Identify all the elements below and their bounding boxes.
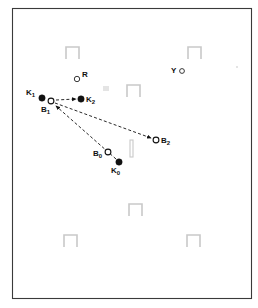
node-marker-y bbox=[180, 69, 185, 74]
node-marker-b1 bbox=[48, 98, 54, 104]
figure-frame bbox=[13, 9, 252, 299]
node-marker-r bbox=[74, 76, 79, 81]
figure-root: K1 K2 K0 B1 B2 B0 R Y bbox=[0, 0, 258, 308]
node-marker-b0 bbox=[105, 149, 111, 155]
smudge-mark bbox=[103, 86, 109, 91]
label-r: R bbox=[82, 70, 88, 79]
schematic-diagram-canvas: K1 K2 K0 B1 B2 B0 R Y bbox=[0, 0, 258, 308]
node-marker-k2 bbox=[78, 96, 84, 102]
label-y: Y bbox=[171, 66, 177, 75]
smudge-mark bbox=[236, 66, 238, 68]
node-marker-b2 bbox=[153, 137, 159, 143]
node-marker-k1 bbox=[39, 95, 45, 101]
node-marker-k0 bbox=[116, 159, 122, 165]
